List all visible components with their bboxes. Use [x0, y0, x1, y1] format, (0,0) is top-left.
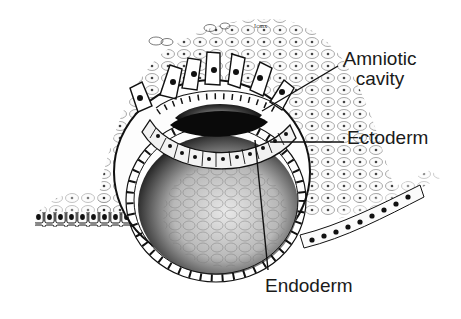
scale-bar-label: Icmx — [254, 23, 268, 29]
label-amniotic-line1: Amniotic — [340, 49, 420, 69]
label-endoderm: Endoderm — [265, 276, 353, 296]
label-ectoderm: Ectoderm — [347, 128, 428, 148]
label-amniotic-line2: cavity — [340, 69, 420, 89]
label-amniotic-cavity: Amniotic cavity — [340, 49, 420, 89]
